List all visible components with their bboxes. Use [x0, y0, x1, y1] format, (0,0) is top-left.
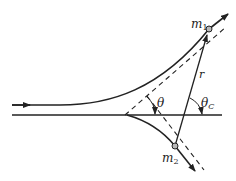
label-theta: θ	[157, 96, 165, 110]
outgoing-arrow-m1-icon	[209, 14, 228, 29]
scattering-diagram: m1 m2 r θ θC	[0, 0, 236, 181]
particle-m2	[172, 143, 178, 149]
theta-arc	[147, 97, 155, 114]
label-theta-c: θC	[201, 96, 214, 111]
label-m2: m2	[162, 151, 178, 166]
trajectory-m2	[127, 115, 175, 146]
label-m1: m1	[191, 17, 207, 32]
r-vector	[175, 35, 207, 146]
label-r: r	[199, 68, 205, 81]
